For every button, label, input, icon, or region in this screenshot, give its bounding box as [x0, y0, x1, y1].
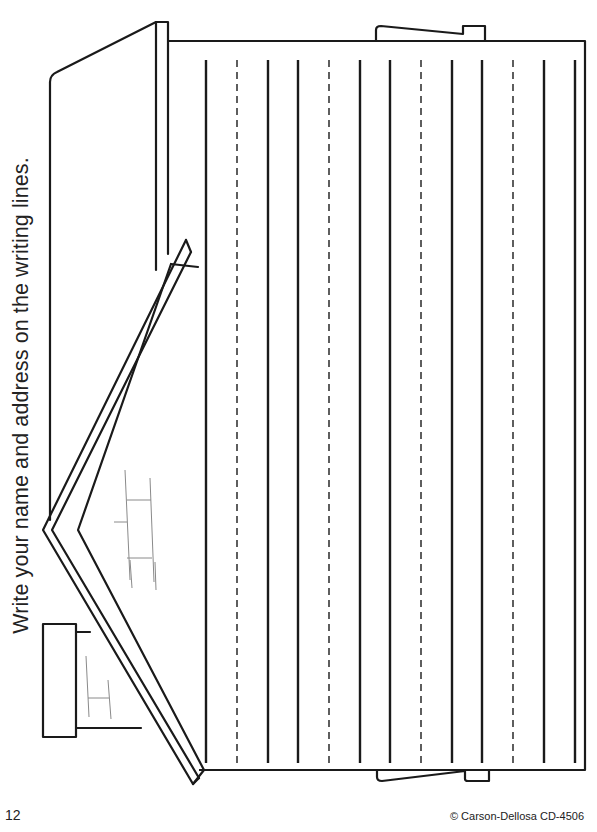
- roof-inner-edge-2: [186, 240, 191, 252]
- bottom-tab-icon: [377, 770, 489, 781]
- copyright-notice: © Carson-Dellosa CD-4506: [450, 810, 584, 822]
- window-sketch-icon: [86, 470, 156, 719]
- roof-inner-edge-1: [52, 252, 199, 778]
- page-number: 12: [5, 807, 21, 823]
- wall-outline: [168, 41, 585, 770]
- house-writing-lines-illustration: [0, 0, 597, 832]
- writing-lines: [206, 60, 575, 763]
- chimney-box: [43, 624, 76, 737]
- roof-outer-edge: [43, 240, 199, 784]
- roof-panel-upper: [50, 22, 168, 520]
- instruction-text: Write your name and address on the writi…: [6, 0, 36, 790]
- top-tab-icon: [376, 26, 485, 41]
